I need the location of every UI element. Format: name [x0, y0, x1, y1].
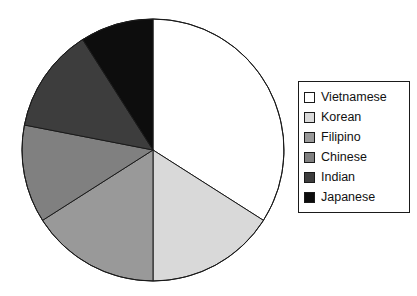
legend-swatch-icon	[304, 152, 315, 163]
legend-swatch-icon	[304, 172, 315, 183]
legend-item-vietnamese[interactable]: Vietnamese	[304, 87, 403, 107]
legend-item-indian[interactable]: Indian	[304, 167, 403, 187]
legend-item-korean[interactable]: Korean	[304, 107, 403, 127]
legend-item-label: Japanese	[321, 191, 375, 204]
legend-item-label: Indian	[321, 171, 355, 184]
legend-item-japanese[interactable]: Japanese	[304, 187, 403, 207]
legend-swatch-icon	[304, 192, 315, 203]
pie-chart-figure: VietnameseKoreanFilipinoChineseIndianJap…	[0, 0, 417, 296]
legend-item-label: Chinese	[321, 151, 367, 164]
legend-item-chinese[interactable]: Chinese	[304, 147, 403, 167]
legend-swatch-icon	[304, 112, 315, 123]
chart-legend: VietnameseKoreanFilipinoChineseIndianJap…	[298, 81, 410, 213]
legend-swatch-icon	[304, 92, 315, 103]
legend-item-filipino[interactable]: Filipino	[304, 127, 403, 147]
legend-item-label: Korean	[321, 111, 361, 124]
legend-item-label: Filipino	[321, 131, 361, 144]
legend-swatch-icon	[304, 132, 315, 143]
legend-item-label: Vietnamese	[321, 91, 387, 104]
